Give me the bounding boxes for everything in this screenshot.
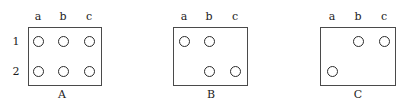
- row-label-1: 1: [10, 35, 22, 48]
- panel-caption-b: B: [191, 88, 231, 101]
- column-header-a: a: [324, 10, 340, 23]
- circle-token: [33, 36, 44, 47]
- column-header-a: a: [176, 10, 192, 23]
- circle-token: [58, 66, 69, 77]
- circle-token: [204, 36, 215, 47]
- circle-token: [204, 66, 215, 77]
- column-header-c: c: [81, 10, 97, 23]
- cell-a-2b: [55, 63, 71, 79]
- cell-a-1c: [81, 33, 97, 49]
- three-panel-circle-diagram: abc12AabcBabcC: [0, 0, 412, 112]
- cell-a-1a: [30, 33, 46, 49]
- circle-token: [379, 36, 390, 47]
- cell-b-1a: [176, 33, 192, 49]
- panel-caption-c: C: [338, 88, 378, 101]
- column-header-b: b: [201, 10, 217, 23]
- panel-caption-a: A: [42, 88, 82, 101]
- circle-token: [58, 36, 69, 47]
- circle-token: [353, 36, 364, 47]
- cell-a-1b: [55, 33, 71, 49]
- cell-c-2a: [324, 63, 340, 79]
- column-header-c: c: [376, 10, 392, 23]
- cell-a-2c: [81, 63, 97, 79]
- circle-token: [84, 66, 95, 77]
- circle-token: [33, 66, 44, 77]
- column-header-b: b: [350, 10, 366, 23]
- cell-b-2c: [227, 63, 243, 79]
- circle-token: [179, 36, 190, 47]
- cell-a-2a: [30, 63, 46, 79]
- cell-c-1b: [350, 33, 366, 49]
- column-header-a: a: [30, 10, 46, 23]
- circle-token: [327, 66, 338, 77]
- cell-c-1c: [376, 33, 392, 49]
- column-header-b: b: [55, 10, 71, 23]
- circle-token: [84, 36, 95, 47]
- row-label-2: 2: [10, 65, 22, 78]
- cell-b-1b: [201, 33, 217, 49]
- cell-b-2b: [201, 63, 217, 79]
- circle-token: [230, 66, 241, 77]
- column-header-c: c: [227, 10, 243, 23]
